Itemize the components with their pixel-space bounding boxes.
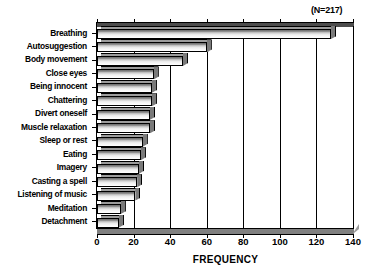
bar xyxy=(97,110,150,120)
bar xyxy=(97,191,135,201)
category-label: Divert oneself xyxy=(0,107,92,120)
category-label: Listening of music xyxy=(0,188,92,201)
category-label: Sleep or rest xyxy=(0,134,92,147)
plot-area xyxy=(97,26,353,228)
category-label: Breathing xyxy=(0,26,92,39)
y-axis-tick xyxy=(92,194,97,195)
x-tick-label: 60 xyxy=(201,236,212,247)
bar-row xyxy=(97,134,148,147)
bar-side-face xyxy=(150,120,155,133)
y-axis-tick xyxy=(92,87,97,88)
category-label: Chattering xyxy=(0,93,92,106)
top-axis-tick xyxy=(134,19,135,23)
x-tick-label: 0 xyxy=(94,236,99,247)
y-axis-tick xyxy=(92,154,97,155)
y-axis-tick xyxy=(92,33,97,34)
category-label: Casting a spell xyxy=(0,174,92,187)
bar-side-face xyxy=(154,66,159,79)
x-tick-label-row: 020406080100120140 xyxy=(0,236,388,250)
gridline xyxy=(316,26,317,228)
bar-row xyxy=(97,120,155,133)
bar xyxy=(97,218,119,228)
bar-side-face xyxy=(143,134,148,147)
x-tick-label: 40 xyxy=(165,236,176,247)
bar-row xyxy=(97,215,124,228)
y-axis-tick xyxy=(92,114,97,115)
x-tick-label: 140 xyxy=(345,236,361,247)
category-label-column: BreathingAutosuggestionBody movementClos… xyxy=(0,26,92,228)
bar-side-face xyxy=(119,215,124,228)
category-label: Autosuggestion xyxy=(0,39,92,52)
bar-side-face xyxy=(137,174,142,187)
y-axis-tick xyxy=(92,181,97,182)
bar-side-face xyxy=(139,161,144,174)
category-label: Eating xyxy=(0,147,92,160)
bottom-axis-line xyxy=(97,228,354,235)
bar xyxy=(97,42,207,52)
category-label: Meditation xyxy=(0,201,92,214)
sample-size-annotation: (N=217) xyxy=(311,5,342,15)
y-axis-tick xyxy=(92,127,97,128)
bar xyxy=(97,56,183,66)
bar-row xyxy=(97,93,157,106)
gridline xyxy=(207,26,208,228)
top-axis-tick xyxy=(353,19,354,23)
top-axis-tick xyxy=(97,19,98,23)
bar-row xyxy=(97,66,159,79)
bar xyxy=(97,96,152,106)
y-axis-tick xyxy=(92,221,97,222)
bar-row xyxy=(97,80,157,93)
top-axis-tick xyxy=(316,19,317,23)
bar-side-face xyxy=(150,107,155,120)
bar xyxy=(97,204,121,214)
bar-side-face xyxy=(152,80,157,93)
top-axis-tick xyxy=(280,19,281,23)
bar-chart-figure: (N=217) BreathingAutosuggestionBody move… xyxy=(0,0,388,278)
bar-side-face xyxy=(141,147,146,160)
gridline xyxy=(353,26,354,228)
bar xyxy=(97,29,331,39)
bar-row xyxy=(97,161,144,174)
category-label: Imagery xyxy=(0,161,92,174)
category-label: Close eyes xyxy=(0,66,92,79)
bar xyxy=(97,164,139,174)
category-label: Being innocent xyxy=(0,80,92,93)
bar-row xyxy=(97,201,126,214)
y-axis-tick xyxy=(92,73,97,74)
x-tick-label: 100 xyxy=(272,236,288,247)
category-label: Muscle relaxation xyxy=(0,120,92,133)
bar xyxy=(97,150,141,160)
y-axis-tick xyxy=(92,167,97,168)
bar-row xyxy=(97,53,188,66)
bar xyxy=(97,83,152,93)
bar-side-face xyxy=(135,188,140,201)
bar-side-face xyxy=(152,93,157,106)
x-tick-label: 20 xyxy=(128,236,139,247)
gridline xyxy=(280,26,281,228)
x-tick-label: 120 xyxy=(308,236,324,247)
top-axis-tick xyxy=(207,19,208,23)
y-axis-tick xyxy=(92,60,97,61)
bar-row xyxy=(97,147,146,160)
bar xyxy=(97,69,154,79)
bar-row xyxy=(97,107,155,120)
bar-side-face xyxy=(331,26,336,39)
category-label: Body movement xyxy=(0,53,92,66)
gridline xyxy=(243,26,244,228)
y-axis-tick xyxy=(92,46,97,47)
y-axis-tick xyxy=(92,140,97,141)
bar-side-face xyxy=(207,39,212,52)
x-tick-label: 80 xyxy=(238,236,249,247)
bar-side-face xyxy=(183,53,188,66)
bar xyxy=(97,123,150,133)
y-axis-tick xyxy=(92,208,97,209)
bar-row xyxy=(97,174,142,187)
y-axis-tick xyxy=(92,100,97,101)
bar xyxy=(97,137,143,147)
category-label: Detachment xyxy=(0,215,92,228)
bar-row xyxy=(97,188,140,201)
bar xyxy=(97,177,137,187)
top-axis-tick xyxy=(243,19,244,23)
top-axis-tick xyxy=(170,19,171,23)
bar-side-face xyxy=(121,201,126,214)
